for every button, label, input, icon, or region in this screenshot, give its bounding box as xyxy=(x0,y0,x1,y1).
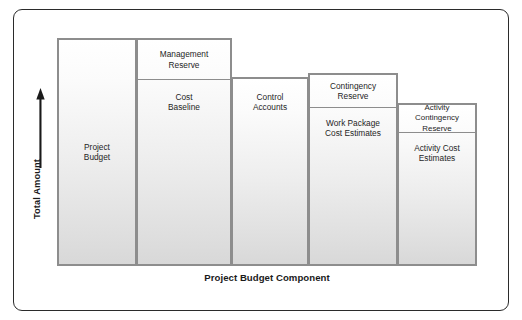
bar-work-package-cost-estimates: Contingency Reserve Work Package Cost Es… xyxy=(308,73,398,266)
bar-control-accounts: Control Accounts xyxy=(231,77,309,266)
segment-management-reserve: Management Reserve xyxy=(138,40,230,80)
x-axis-label: Project Budget Component xyxy=(57,272,477,283)
segment-work-package-cost-estimates: Work Package Cost Estimates xyxy=(310,108,396,264)
bar-cost-baseline: Management Reserve Cost Baseline xyxy=(136,38,232,266)
segment-label-activity-contingency-reserve: Activity Contingency Reserve xyxy=(399,103,475,134)
segment-label-management-reserve: Management Reserve xyxy=(157,49,211,70)
segment-label-activity-cost-estimates: Activity Cost Estimates xyxy=(411,143,463,164)
segment-cost-baseline: Cost Baseline xyxy=(138,80,230,264)
project-budget-component-figure: Total Amount Project Budget Management R… xyxy=(0,0,522,320)
bar-project-budget: Project Budget xyxy=(57,38,137,266)
segment-label-project-budget: Project Budget xyxy=(81,142,113,163)
segment-project-budget: Project Budget xyxy=(59,40,135,264)
segment-activity-cost-estimates: Activity Cost Estimates xyxy=(399,133,475,264)
bar-activity-cost-estimates: Activity Contingency Reserve Activity Co… xyxy=(397,103,477,266)
segment-label-work-package-cost-estimates: Work Package Cost Estimates xyxy=(322,118,384,139)
segment-label-cost-baseline: Cost Baseline xyxy=(165,92,203,113)
segment-contingency-reserve: Contingency Reserve xyxy=(310,75,396,108)
segment-control-accounts: Control Accounts xyxy=(233,79,307,129)
segment-label-contingency-reserve: Contingency Reserve xyxy=(327,81,379,102)
y-axis: Total Amount xyxy=(26,88,56,273)
y-axis-label: Total Amount xyxy=(32,134,42,244)
segment-label-control-accounts: Control Accounts xyxy=(250,92,290,113)
segment-control-accounts-body xyxy=(233,129,307,264)
segment-activity-contingency-reserve: Activity Contingency Reserve xyxy=(399,105,475,133)
